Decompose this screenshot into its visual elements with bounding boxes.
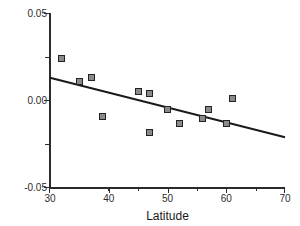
x-tick-label-30: 30 — [44, 193, 55, 204]
data-point — [146, 129, 153, 136]
data-point — [135, 88, 142, 95]
regression-trendline — [50, 13, 285, 188]
x-tick-label-60: 60 — [221, 193, 232, 204]
data-point — [146, 90, 153, 97]
x-tick-label-50: 50 — [162, 193, 173, 204]
plot-area: 30 40 50 60 70 0.05 0.00 -0.05 Latitude … — [50, 13, 285, 188]
data-point — [76, 78, 83, 85]
x-tick-label-70: 70 — [279, 193, 290, 204]
data-point — [164, 106, 171, 113]
data-point — [99, 113, 106, 120]
data-point — [229, 95, 236, 102]
data-point — [176, 120, 183, 127]
data-point — [199, 115, 206, 122]
data-point — [88, 74, 95, 81]
data-point — [58, 55, 65, 62]
data-point — [205, 106, 212, 113]
x-axis-title: Latitude — [50, 209, 285, 223]
x-tick-label-40: 40 — [103, 193, 114, 204]
y-tick-label-0.05: 0.05 — [28, 8, 47, 19]
y-tick-label--0.05: -0.05 — [24, 182, 47, 193]
data-point — [223, 120, 230, 127]
y-tick-label-0.00: 0.00 — [28, 95, 47, 106]
scatter-plot-figure: 30 40 50 60 70 0.05 0.00 -0.05 Latitude … — [0, 0, 300, 226]
